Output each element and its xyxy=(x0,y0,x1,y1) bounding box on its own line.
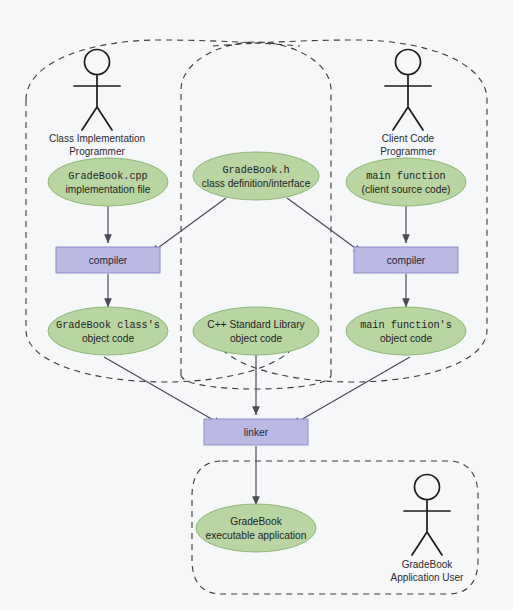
actor-label-line2: Programmer xyxy=(380,146,436,157)
node-label-line1: GradeBook class's xyxy=(56,320,160,331)
node-main-function[interactable]: main function (client source code) xyxy=(346,158,466,206)
node-gradebook-class-object-code[interactable]: GradeBook class's object code xyxy=(48,307,168,355)
node-label-line1: main function xyxy=(366,171,445,182)
actor-client-code-programmer: Client Code Programmer xyxy=(380,50,436,158)
actor-label-line1: Client Code xyxy=(382,133,435,144)
actor-body-icon xyxy=(385,75,431,130)
actor-head-icon xyxy=(85,50,110,75)
arrow-main-object-to-linker xyxy=(292,357,410,425)
node-label-line1: C++ Standard Library xyxy=(207,319,305,330)
node-compiler-right[interactable]: compiler xyxy=(354,247,458,273)
node-cpp-standard-library-object-code[interactable]: C++ Standard Library object code xyxy=(193,307,319,355)
node-label-line2: implementation file xyxy=(66,184,151,195)
node-label-line2: (client source code) xyxy=(362,184,451,195)
arrow-gradebook-object-to-linker xyxy=(104,357,222,425)
node-label-line1: main function's xyxy=(360,320,452,331)
node-shape[interactable] xyxy=(48,158,168,206)
node-label-line1: GradeBook.h xyxy=(222,165,289,176)
arrow-h-to-compiler-right xyxy=(287,198,362,253)
actor-head-icon xyxy=(415,475,440,500)
node-shape[interactable] xyxy=(193,307,319,355)
arrow-h-to-compiler-left xyxy=(151,198,226,253)
node-gradebook-executable[interactable]: GradeBook executable application xyxy=(196,504,316,552)
actor-body-icon xyxy=(74,75,120,130)
actor-label-line2: Programmer xyxy=(69,146,125,157)
node-label-line2: executable application xyxy=(206,530,307,541)
node-label-line1: GradeBook.cpp xyxy=(68,171,147,182)
node-linker[interactable]: linker xyxy=(204,419,308,445)
node-compiler-left[interactable]: compiler xyxy=(56,247,160,273)
node-shape[interactable] xyxy=(346,158,466,206)
actor-gradebook-application-user: GradeBook Application User xyxy=(391,475,464,584)
node-label: compiler xyxy=(387,255,426,266)
node-main-function-object-code[interactable]: main function's object code xyxy=(346,307,466,355)
node-shape[interactable] xyxy=(346,307,466,355)
node-label-line2: class definition/interface xyxy=(202,178,311,189)
diagram-canvas: Class Implementation Programmer Client C… xyxy=(0,0,513,610)
node-label-line2: object code xyxy=(82,333,134,344)
node-label-line2: object code xyxy=(380,333,432,344)
actor-class-implementation-programmer: Class Implementation Programmer xyxy=(49,50,145,158)
node-shape[interactable] xyxy=(193,152,319,200)
node-shape[interactable] xyxy=(196,504,316,552)
actor-head-icon xyxy=(396,50,421,75)
node-label-line2: object code xyxy=(230,333,282,344)
node-label-line1: GradeBook xyxy=(230,516,282,527)
node-label: linker xyxy=(244,427,269,438)
node-gradebook-cpp[interactable]: GradeBook.cpp implementation file xyxy=(48,158,168,206)
node-label: compiler xyxy=(89,255,128,266)
uml-compilation-diagram: Class Implementation Programmer Client C… xyxy=(0,0,513,610)
actor-label-line2: Application User xyxy=(391,572,464,583)
node-gradebook-h[interactable]: GradeBook.h class definition/interface xyxy=(193,152,319,200)
region-class-implementation xyxy=(26,40,300,100)
actor-label-line1: Class Implementation xyxy=(49,133,145,144)
actor-body-icon xyxy=(404,500,450,555)
actor-label-line1: GradeBook xyxy=(402,559,454,570)
node-shape[interactable] xyxy=(48,307,168,355)
